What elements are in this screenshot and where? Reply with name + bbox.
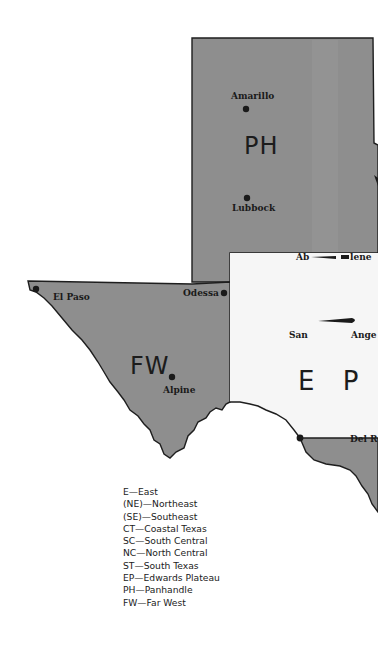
city-label-lubbock: Lubbock	[232, 203, 275, 213]
city-label-del-rio: Del R	[350, 434, 378, 444]
legend-item-south-texas: ST—South Texas	[123, 560, 220, 572]
city-dot-amarillo	[243, 106, 249, 112]
texture-strip	[312, 40, 338, 252]
legend-item-far-west: FW—Far West	[123, 597, 220, 609]
city-dot-del-rio	[297, 435, 304, 442]
city-label-el-paso: El Paso	[53, 292, 90, 302]
city-dot-lubbock	[244, 195, 250, 201]
legend-item-south-central: SC—South Central	[123, 535, 220, 547]
region-legend: E—East (NE)—Northeast (SE)—Southeast CT—…	[123, 486, 220, 609]
city-dot-el-paso	[33, 286, 39, 292]
region-far-west	[28, 281, 230, 458]
legend-item-north-central: NC—North Central	[123, 547, 220, 559]
region-edwards-plateau	[230, 253, 378, 438]
legend-item-northeast: (NE)—Northeast	[123, 498, 220, 510]
city-label-abilene-right: lene	[350, 252, 371, 262]
city-dot-odessa	[221, 290, 227, 296]
legend-item-southeast: (SE)—Southeast	[123, 511, 220, 523]
legend-item-coastal-texas: CT—Coastal Texas	[123, 523, 220, 535]
region-label-edwards-plateau: E P	[298, 366, 368, 396]
city-label-abilene-left: Ab	[296, 252, 309, 262]
legend-item-edwards-plateau: EP—Edwards Plateau	[123, 572, 220, 584]
region-label-far-west: FW	[130, 352, 170, 380]
city-label-odessa: Odessa	[183, 288, 219, 298]
city-label-amarillo: Amarillo	[231, 91, 274, 101]
city-label-san-angelo-left: San	[289, 330, 308, 340]
city-label-san-angelo-right: Ange	[351, 330, 377, 340]
region-south-edge	[300, 438, 378, 512]
city-dot-alpine	[169, 374, 175, 380]
region-label-panhandle: PH	[244, 132, 279, 160]
city-label-alpine: Alpine	[163, 385, 195, 395]
region-panhandle	[192, 38, 378, 282]
abilene-artifact	[341, 255, 349, 259]
legend-item-east: E—East	[123, 486, 220, 498]
legend-item-panhandle: PH—Panhandle	[123, 584, 220, 596]
